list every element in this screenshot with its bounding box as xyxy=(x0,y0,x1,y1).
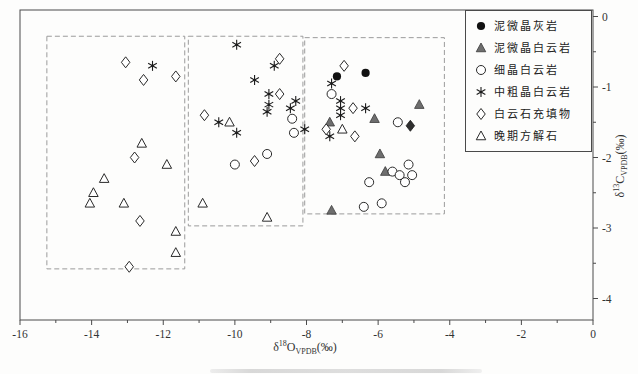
asterisk-marker xyxy=(339,114,342,117)
asterisk-marker xyxy=(235,43,238,46)
asterisk-marker xyxy=(273,65,276,68)
diamond-open-marker xyxy=(172,71,181,82)
triangle-filled-marker xyxy=(415,100,425,109)
circle-open-marker xyxy=(477,66,486,75)
x-tick-label: -14 xyxy=(84,328,100,340)
isotope-crossplot-figure: -16-14-12-10-8-6-4-200-1-2-3-4 泥微晶灰岩泥微晶白… xyxy=(0,0,638,374)
triangle-open-marker xyxy=(89,188,99,197)
x-axis-unit: (‰) xyxy=(317,340,337,354)
asterisk-marker xyxy=(294,100,297,103)
circle-open-marker xyxy=(289,128,298,137)
x-tick-label: 0 xyxy=(590,328,596,340)
triangle-filled-marker xyxy=(327,205,337,214)
x-tick-label: -4 xyxy=(445,328,455,340)
asterisk-marker xyxy=(330,82,333,85)
asterisk-icon xyxy=(472,84,494,100)
legend-box: 泥微晶灰岩泥微晶白云岩细晶白云岩中粗晶白云岩白云石充填物晚期方解石 xyxy=(465,10,592,152)
legend-item: 中粗晶白云岩 xyxy=(472,82,591,102)
legend-item: 泥微晶灰岩 xyxy=(472,16,591,36)
diamond-open-marker xyxy=(351,131,360,142)
triangle-open-marker xyxy=(225,117,235,126)
diamond-open-marker xyxy=(250,156,259,167)
x-axis-isotope: 18 xyxy=(279,339,287,348)
asterisk-marker xyxy=(328,135,331,138)
triangle-filled-marker xyxy=(476,43,486,52)
circle-open-marker xyxy=(408,171,417,180)
circle-filled-icon xyxy=(472,18,494,34)
triangle-open-marker xyxy=(85,198,95,207)
triangle-filled-icon xyxy=(472,40,494,56)
circle-open-marker xyxy=(400,178,409,187)
diamond-open-marker xyxy=(121,57,130,68)
asterisk-marker xyxy=(289,107,292,110)
y-axis-title: δ13CVPDB(‰) xyxy=(612,116,629,216)
cropped-caption-smear xyxy=(210,369,482,373)
circle-open-icon xyxy=(472,62,494,78)
y-axis-element: C xyxy=(613,176,627,184)
asterisk-marker xyxy=(151,65,154,68)
legend-item-label: 中粗晶白云岩 xyxy=(494,87,572,98)
legend-item: 晚期方解石 xyxy=(472,126,591,146)
cluster-box-1 xyxy=(47,36,185,269)
asterisk-marker xyxy=(339,100,342,103)
circle-open-marker xyxy=(404,160,413,169)
diamond-open-marker xyxy=(477,109,486,120)
x-axis-standard: VPDB xyxy=(295,347,316,356)
triangle-open-marker xyxy=(137,138,147,147)
asterisk-marker xyxy=(268,93,271,96)
circle-open-marker xyxy=(365,178,374,187)
y-axis-delta: δ xyxy=(613,192,627,198)
circle-open-marker xyxy=(263,149,272,158)
y-tick-label: -3 xyxy=(602,222,612,234)
circle-open-marker xyxy=(393,118,402,127)
triangle-filled-marker xyxy=(370,114,380,123)
triangle-open-marker xyxy=(262,212,272,221)
circle-open-marker xyxy=(288,114,297,123)
legend-item-label: 晚期方解石 xyxy=(494,131,559,142)
asterisk-marker xyxy=(266,110,269,113)
circle-open-marker xyxy=(327,90,336,99)
triangle-open-marker xyxy=(171,227,181,236)
diamond-open-marker xyxy=(125,261,133,272)
legend-item: 白云石充填物 xyxy=(472,104,591,124)
y-tick-label: -2 xyxy=(602,152,612,164)
triangle-open-marker xyxy=(119,198,129,207)
diamond-open-marker xyxy=(275,53,284,64)
asterisk-marker xyxy=(303,128,306,131)
y-tick-label: 0 xyxy=(602,11,608,23)
legend-item-label: 白云石充填物 xyxy=(494,109,572,120)
circle-filled-marker xyxy=(477,22,485,30)
diamond-open-marker xyxy=(130,152,139,163)
y-axis-standard: VPDB xyxy=(620,155,629,176)
asterisk-marker xyxy=(268,103,271,106)
diamond-open-marker xyxy=(200,110,209,121)
circle-open-marker xyxy=(359,202,368,211)
circle-filled-marker xyxy=(333,72,341,80)
triangle-filled-marker xyxy=(375,149,385,158)
asterisk-marker xyxy=(235,132,238,135)
legend-item: 泥微晶白云岩 xyxy=(472,38,591,58)
legend-item: 细晶白云岩 xyxy=(472,60,591,80)
asterisk-marker xyxy=(480,91,483,94)
x-tick-label: -2 xyxy=(517,328,527,340)
diamond-open-marker xyxy=(139,74,148,85)
circle-open-marker xyxy=(230,160,239,169)
diamond-open-marker xyxy=(136,215,145,226)
triangle-open-marker xyxy=(198,198,208,207)
diamond-open-icon xyxy=(472,106,494,122)
triangle-open-marker xyxy=(99,174,109,183)
x-tick-label: -16 xyxy=(12,328,28,340)
circle-filled-marker xyxy=(361,69,369,77)
x-tick-label: -12 xyxy=(156,328,172,340)
asterisk-marker xyxy=(364,107,367,110)
triangle-open-marker xyxy=(162,160,172,169)
y-axis-unit: (‰) xyxy=(613,135,627,155)
asterisk-marker xyxy=(253,79,256,82)
y-tick-label: -4 xyxy=(602,293,612,305)
y-axis-isotope: 13 xyxy=(612,184,621,192)
y-tick-label: -1 xyxy=(602,81,612,93)
diamond-filled-marker xyxy=(406,120,415,131)
legend-item-label: 泥微晶白云岩 xyxy=(494,43,572,54)
diamond-open-marker xyxy=(275,89,284,100)
legend-item-label: 细晶白云岩 xyxy=(494,65,559,76)
